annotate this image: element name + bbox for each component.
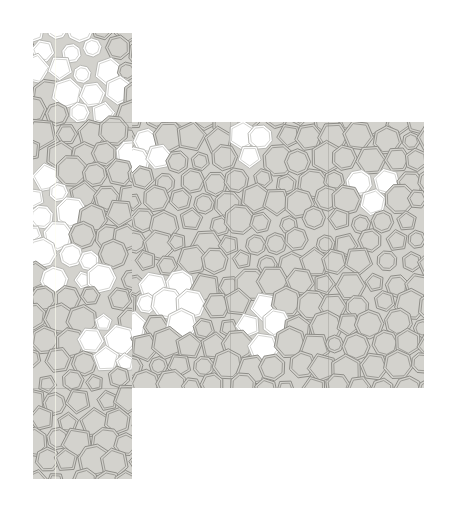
- tile-pattern: [132, 122, 424, 388]
- tile: [285, 227, 308, 251]
- tile: [56, 156, 87, 187]
- left-strip-panel: [33, 33, 132, 479]
- tile: [302, 206, 325, 230]
- seam-line: [230, 122, 231, 388]
- right-panel: [132, 122, 424, 388]
- tile: [238, 147, 261, 169]
- tile: [56, 125, 78, 144]
- tile: [144, 185, 170, 212]
- seam-line: [33, 122, 132, 123]
- tile: [248, 125, 272, 149]
- tile: [48, 57, 73, 81]
- tile: [212, 145, 238, 171]
- tile: [224, 205, 254, 235]
- seam-line: [33, 388, 132, 389]
- tile: [105, 35, 129, 60]
- tile: [277, 381, 295, 388]
- tile-pattern: [33, 33, 132, 479]
- tile: [201, 248, 228, 274]
- seam-highlight: [55, 33, 56, 479]
- tile: [65, 390, 90, 414]
- tile: [332, 145, 357, 170]
- tile: [345, 248, 373, 275]
- tile: [265, 233, 287, 255]
- seam-line: [328, 122, 329, 388]
